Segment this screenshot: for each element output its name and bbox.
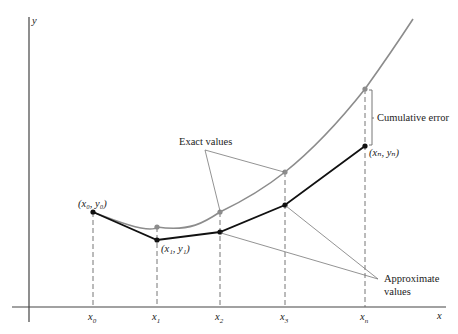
- tick-x2: x2: [215, 312, 223, 325]
- guide-lines: [93, 89, 365, 307]
- cumulative-error-bracket: [369, 90, 374, 145]
- cumulative-error-label: Cumulative error: [377, 113, 449, 124]
- y-axis-label: y: [32, 16, 37, 27]
- exact-value-markers: [154, 86, 367, 229]
- tick-xn: xn: [360, 312, 368, 325]
- exact-values-label: Exact values: [179, 137, 232, 148]
- approximate-values-label-1: Approximate: [384, 274, 439, 285]
- point-label-1: (x₁, y₁): [161, 244, 190, 255]
- point-label-n: (xₙ, yₙ): [369, 148, 399, 159]
- exact-values-leaders: [205, 150, 284, 211]
- tick-x3: x3: [280, 312, 288, 325]
- approximate-values-label-2: values: [384, 287, 411, 298]
- approximate-values-leaders: [221, 206, 378, 279]
- tick-x0: x0: [88, 312, 96, 325]
- point-label-0: (x₀, y₀): [78, 199, 107, 210]
- tick-x1: x1: [152, 312, 160, 325]
- x-axis-label: x: [437, 311, 442, 322]
